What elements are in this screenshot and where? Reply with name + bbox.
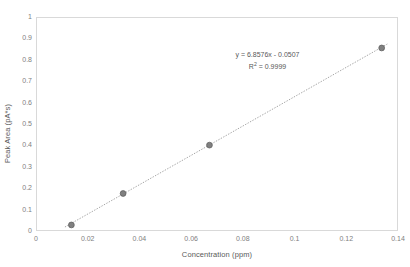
calibration-curve-chart: Peak Area (pA*s) 00.10.20.30.40.50.60.70… — [0, 0, 410, 267]
trendline-group — [65, 44, 387, 227]
x-axis-tick-labels: 00.020.040.060.080.10.120.14 — [36, 234, 398, 246]
data-points-group — [68, 45, 384, 228]
x-axis-title: Concentration (ppm) — [36, 250, 398, 259]
y-tick-label: 0.4 — [12, 141, 32, 149]
data-point — [68, 222, 74, 228]
trendline-annotation: y = 6.8576x - 0.0507 R2 = 0.9999 — [205, 50, 330, 71]
y-axis-tick-labels: 00.10.20.30.40.50.60.70.80.91 — [12, 17, 32, 231]
y-tick-label: 0.3 — [12, 163, 32, 171]
y-tick-label: 1 — [12, 13, 32, 21]
y-tick-label: 0.2 — [12, 184, 32, 192]
x-tick-label: 0.12 — [329, 234, 363, 243]
x-tick-label: 0.02 — [71, 234, 105, 243]
y-tick-label: 0.9 — [12, 34, 32, 42]
data-point — [120, 191, 126, 197]
trendline-equation-text: y = 6.8576x - 0.0507 — [205, 50, 330, 60]
r-squared-text: R2 = 0.9999 — [205, 60, 330, 72]
y-tick-label: 0.6 — [12, 99, 32, 107]
x-tick-label: 0 — [19, 234, 53, 243]
r-squared-value: = 0.9999 — [257, 63, 286, 70]
x-tick-label: 0.1 — [278, 234, 312, 243]
x-tick-label: 0.04 — [122, 234, 156, 243]
y-tick-label: 0.1 — [12, 206, 32, 214]
x-tick-label: 0.06 — [174, 234, 208, 243]
x-tick-label: 0.14 — [381, 234, 410, 243]
trendline — [65, 44, 387, 227]
data-point — [379, 45, 385, 51]
x-tick-label: 0.08 — [226, 234, 260, 243]
y-tick-label: 0.5 — [12, 120, 32, 128]
data-point — [207, 142, 213, 148]
y-tick-label: 0.8 — [12, 56, 32, 64]
y-tick-label: 0.7 — [12, 77, 32, 85]
